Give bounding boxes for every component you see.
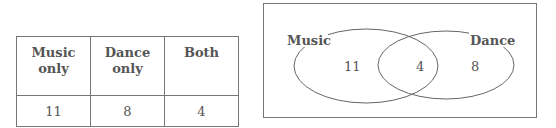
value-both: 4 bbox=[165, 96, 239, 127]
header-line: Music bbox=[17, 45, 90, 61]
dance-only-count: 8 bbox=[471, 59, 479, 74]
venn-svg: Music Dance 11 4 8 bbox=[264, 4, 538, 119]
music-label: Music bbox=[287, 33, 331, 48]
header-line: Both bbox=[165, 45, 238, 61]
table-row: 11 8 4 bbox=[17, 96, 239, 127]
intersection-count: 4 bbox=[416, 59, 424, 74]
header-both: Both bbox=[165, 37, 239, 96]
header-line: Dance bbox=[91, 45, 164, 61]
counts-table: Music only Dance only Both 11 8 4 bbox=[16, 36, 239, 127]
venn-diagram: Music Dance 11 4 8 bbox=[263, 3, 537, 118]
value-music-only: 11 bbox=[17, 96, 91, 127]
header-music-only: Music only bbox=[17, 37, 91, 96]
music-only-count: 11 bbox=[344, 59, 361, 74]
header-dance-only: Dance only bbox=[91, 37, 165, 96]
dance-label: Dance bbox=[470, 33, 515, 48]
value-dance-only: 8 bbox=[91, 96, 165, 127]
header-line: only bbox=[17, 61, 90, 77]
table-header-row: Music only Dance only Both bbox=[17, 37, 239, 96]
header-line: only bbox=[91, 61, 164, 77]
